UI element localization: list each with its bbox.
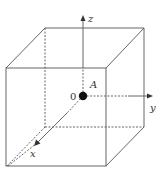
top-right-depth-edge xyxy=(106,28,144,68)
bottom-right-depth-edge xyxy=(106,127,144,166)
y-axis-label: y xyxy=(149,102,156,113)
point-a xyxy=(79,92,87,100)
z-arrow-icon xyxy=(81,15,86,21)
x-axis xyxy=(37,113,67,143)
bottom-left-depth-edge xyxy=(7,127,45,166)
y-arrow-icon xyxy=(147,94,153,99)
point-a-label: A xyxy=(89,79,97,90)
top-left-depth-edge xyxy=(6,28,45,68)
z-axis-label: z xyxy=(87,13,94,24)
origin-label: 0 xyxy=(70,91,76,102)
cube-diagram: z y x 0 A xyxy=(0,0,161,176)
x-axis-label: x xyxy=(30,148,36,159)
